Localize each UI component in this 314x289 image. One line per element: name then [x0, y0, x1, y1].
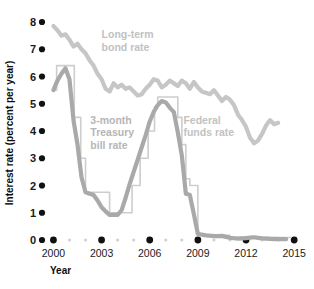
- y-tick-dot-8: [39, 19, 45, 25]
- y-axis-title: Interest rate (percent per year): [4, 61, 15, 206]
- y-tick-label-7: 7: [30, 43, 36, 55]
- x-axis-tick-labels: 200020032006200920122015: [42, 247, 306, 259]
- x-tick-dot-minor-2010: [212, 239, 215, 242]
- annotation-ffr-label-1: Federal: [183, 114, 220, 126]
- x-tick-dot-2000: [50, 237, 57, 244]
- annotation-tbill-label-1: 3-month: [90, 114, 131, 126]
- x-tick-label-2006: 2006: [138, 247, 162, 259]
- x-tick-dot-minor-2004: [116, 239, 119, 242]
- y-axis-tick-dots: [39, 19, 45, 243]
- x-tick-dot-2006: [146, 237, 153, 244]
- y-tick-label-2: 2: [30, 180, 36, 192]
- x-tick-label-2000: 2000: [42, 247, 66, 259]
- y-tick-dot-3: [39, 155, 45, 161]
- x-tick-dot-minor-2008: [180, 239, 183, 242]
- x-tick-label-2003: 2003: [90, 247, 114, 259]
- y-tick-dot-5: [39, 101, 45, 107]
- y-tick-label-5: 5: [30, 98, 36, 110]
- x-tick-label-2009: 2009: [186, 247, 210, 259]
- annotation-tbill-label-3: bill rate: [90, 139, 128, 151]
- y-tick-label-6: 6: [30, 71, 36, 83]
- series-line-federal-funds-rate: [53, 66, 291, 238]
- y-tick-dot-2: [39, 182, 45, 188]
- x-tick-label-2012: 2012: [234, 247, 258, 259]
- y-tick-dot-4: [39, 128, 45, 134]
- chart-series-group: [53, 26, 291, 239]
- y-tick-label-3: 3: [30, 152, 36, 164]
- series-line-3-month-treasury-bill-rate: [53, 68, 286, 239]
- x-tick-dot-minor-2005: [132, 239, 135, 242]
- annotation-ffr-label-2: funds rate: [183, 126, 234, 138]
- x-axis-title: Year: [50, 265, 71, 276]
- y-tick-dot-1: [39, 210, 45, 216]
- interest-rate-chart: 876543210 200020032006200920122015 Long-…: [0, 0, 314, 289]
- y-tick-dot-7: [39, 46, 45, 52]
- y-tick-dot-0: [39, 237, 45, 243]
- y-tick-label-0: 0: [30, 234, 36, 246]
- x-tick-label-2015: 2015: [283, 247, 307, 259]
- annotation-long-term-label-2: bond rate: [102, 41, 150, 53]
- x-tick-dot-2015: [291, 237, 298, 244]
- x-tick-dot-2003: [98, 237, 105, 244]
- y-tick-dot-6: [39, 73, 45, 79]
- x-tick-dot-minor-2007: [164, 239, 167, 242]
- y-axis-tick-labels: 876543210: [30, 16, 37, 246]
- y-tick-label-1: 1: [30, 207, 36, 219]
- x-tick-dot-2009: [194, 237, 201, 244]
- chart-svg: 876543210 200020032006200920122015 Long-…: [0, 0, 314, 289]
- x-tick-dot-minor-2002: [84, 239, 87, 242]
- y-tick-label-8: 8: [30, 16, 36, 28]
- annotation-long-term-label-1: Long-term: [102, 28, 154, 40]
- annotation-tbill-label-2: Treasury: [90, 126, 134, 138]
- x-tick-dot-minor-2001: [68, 239, 71, 242]
- y-tick-label-4: 4: [30, 125, 37, 137]
- series-line-long-term-bond-rate: [53, 26, 278, 143]
